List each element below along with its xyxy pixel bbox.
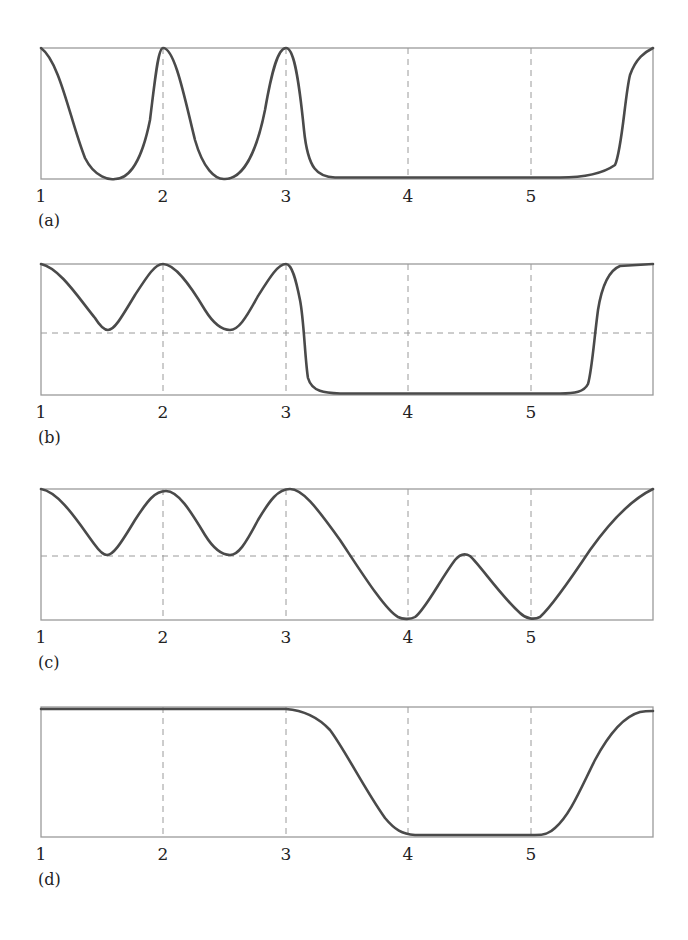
x-tick-1: 1 xyxy=(36,846,47,863)
x-tick-3: 3 xyxy=(281,846,292,863)
x-tick-5: 5 xyxy=(526,846,537,863)
panel-d: 1 2 3 4 5 (d) xyxy=(0,0,688,900)
x-tick-4: 4 xyxy=(403,846,414,863)
curve-d xyxy=(41,709,653,835)
x-tick-2: 2 xyxy=(158,846,169,863)
plot-d xyxy=(0,0,688,900)
panel-label-d: (d) xyxy=(38,872,61,888)
